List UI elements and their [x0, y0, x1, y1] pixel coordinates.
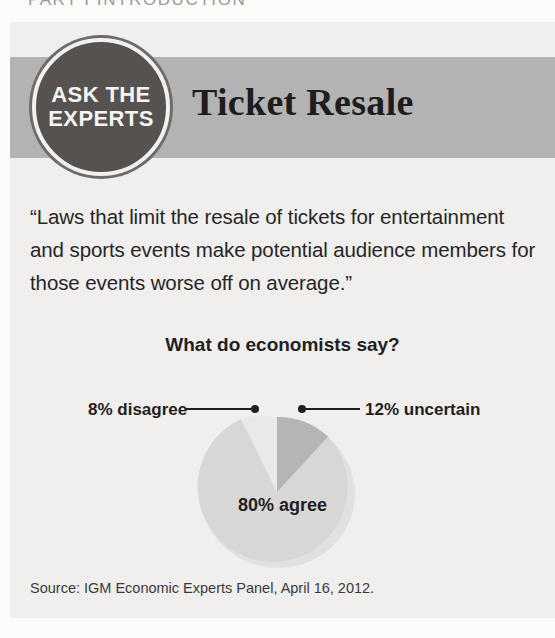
page-title: Ticket Resale	[192, 80, 414, 124]
badge-line-2: EXPERTS	[48, 107, 154, 131]
pie-label-disagree: 8% disagree	[88, 400, 187, 420]
pie-label-uncertain: 12% uncertain	[365, 400, 480, 420]
badge-line-1: ASK THE	[51, 83, 150, 107]
quote-text: “Laws that limit the resale of tickets f…	[30, 200, 536, 299]
running-head: PART I INTRODUCTION	[28, 0, 246, 8]
ask-the-experts-feature-box: Ticket Resale ASK THE EXPERTS “Laws that…	[10, 22, 555, 618]
leader-dot-uncertain	[298, 405, 306, 413]
source-note: Source: IGM Economic Experts Panel, Apri…	[30, 580, 374, 596]
chart-title: What do economists say?	[10, 334, 555, 356]
pie-chart: 8% disagree 12% uncertain 80% agree	[10, 372, 555, 572]
ask-the-experts-badge: ASK THE EXPERTS	[32, 38, 170, 176]
leader-dot-disagree	[251, 405, 259, 413]
